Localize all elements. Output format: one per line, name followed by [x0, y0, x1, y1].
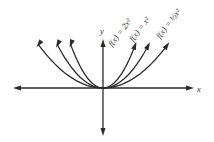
y-axis-bottom-arrow: [101, 128, 106, 136]
curve-2-left-arrow: [56, 39, 62, 47]
y-axis-label: y: [99, 26, 104, 36]
x-axis-left-arrow: [13, 86, 21, 91]
curve-label-2: f(x) = x²: [127, 15, 152, 44]
x-axis-right-arrow: [186, 86, 194, 91]
parabola-chart: x y f(x) = 2x²f(x) = x²f(x) = ½x²: [0, 0, 214, 142]
curve-2-right-arrow: [144, 42, 150, 50]
curve-1-left-arrow: [70, 39, 75, 47]
x-axis-label: x: [196, 84, 201, 94]
y-axis-top-arrow: [101, 39, 106, 47]
curve-label-3: f(x) = ½x²: [154, 7, 183, 41]
curve-labels: f(x) = 2x²f(x) = x²f(x) = ½x²: [106, 7, 183, 49]
